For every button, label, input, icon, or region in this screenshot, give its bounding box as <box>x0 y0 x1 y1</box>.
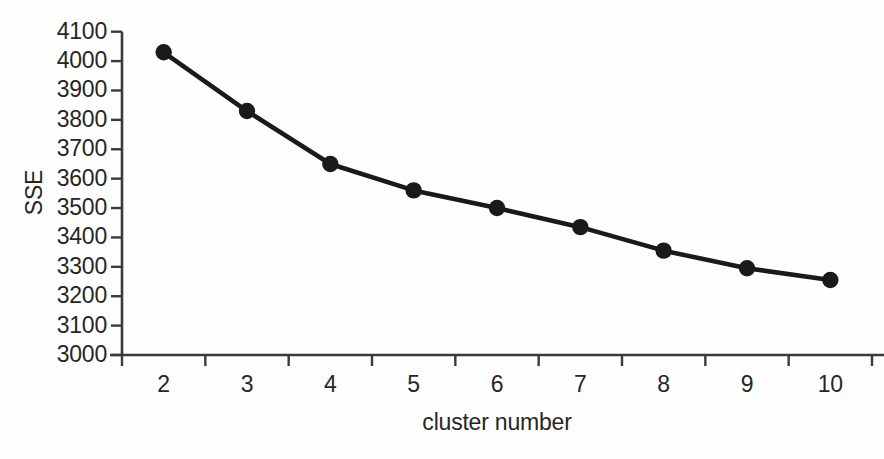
y-axis-tick-label: 3900 <box>35 78 107 101</box>
y-axis-tick-label: 3700 <box>35 137 107 160</box>
y-axis-tick-label: 3100 <box>35 314 107 337</box>
y-axis-tick-label: 3000 <box>35 343 107 366</box>
x-axis-tick-label: 8 <box>634 373 694 396</box>
y-axis-tick-label: 3300 <box>35 255 107 278</box>
chart-axes <box>110 32 884 366</box>
x-axis-tick-label: 6 <box>467 373 527 396</box>
y-axis-tick-label: 4000 <box>35 49 107 72</box>
x-axis-tick-label: 10 <box>800 373 860 396</box>
y-axis-tick-label: 3200 <box>35 284 107 307</box>
data-point-marker <box>155 44 171 60</box>
data-point-marker <box>739 260 755 276</box>
data-point-marker <box>239 103 255 119</box>
x-axis-tick-label: 9 <box>717 373 777 396</box>
data-point-marker <box>822 272 838 288</box>
data-point-marker <box>655 242 671 258</box>
series-line-sse <box>164 52 831 280</box>
x-axis-title: cluster number <box>402 411 592 434</box>
y-axis-tick-label: 3800 <box>35 108 107 131</box>
chart-page: 3000310032003300340035003600370038003900… <box>0 0 884 459</box>
y-axis-tick-label: 3400 <box>35 225 107 248</box>
x-axis-tick-label: 2 <box>134 373 194 396</box>
data-point-marker <box>405 182 421 198</box>
chart-figure: 3000310032003300340035003600370038003900… <box>0 0 884 459</box>
x-axis-tick-label: 7 <box>550 373 610 396</box>
data-point-marker <box>572 219 588 235</box>
y-axis-tick-label: 4100 <box>35 20 107 43</box>
x-axis-tick-label: 4 <box>300 373 360 396</box>
x-axis-tick-label: 5 <box>384 373 444 396</box>
y-axis-title: SSE <box>23 163 46 223</box>
data-point-marker <box>489 200 505 216</box>
chart-series-line <box>164 52 831 280</box>
chart-data-markers <box>155 44 838 288</box>
x-axis-tick-label: 3 <box>217 373 277 396</box>
data-point-marker <box>322 156 338 172</box>
